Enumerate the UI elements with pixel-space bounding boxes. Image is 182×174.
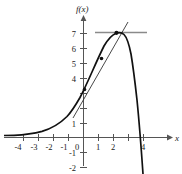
xtick-label: 4 <box>141 142 146 152</box>
ytick-label: -2 <box>69 163 76 173</box>
x-axis-arrowhead <box>167 135 173 141</box>
ytick-label: -1 <box>69 148 76 158</box>
ytick-label: 4 <box>72 74 77 84</box>
ytick-label: 1 <box>72 119 76 129</box>
x-axis <box>4 135 173 141</box>
function-graph-figure: f(x) x -4 -3 -2 -1 0 1 2 4 -2 -1 1 4 5 6… <box>0 0 182 174</box>
secant-point-lower <box>83 88 87 92</box>
x-axis-label: x <box>174 133 179 143</box>
xtick-label: -4 <box>14 142 22 152</box>
maximum-point <box>114 31 118 35</box>
y-axis-label: f(x) <box>76 4 89 14</box>
ytick-label: 6 <box>72 44 76 54</box>
xtick-label: -2 <box>45 142 52 152</box>
secant-point-upper <box>100 57 104 61</box>
y-axis-arrowhead <box>81 15 87 21</box>
xtick-label: 2 <box>111 142 115 152</box>
xtick-label: 1 <box>96 142 100 152</box>
xtick-label: -1 <box>60 142 67 152</box>
xtick-label: -3 <box>30 142 37 152</box>
ytick-label: 5 <box>72 59 76 69</box>
ytick-label: 7 <box>72 29 76 39</box>
secant-line <box>73 22 128 118</box>
graph-canvas: f(x) x -4 -3 -2 -1 0 1 2 4 -2 -1 1 4 5 6… <box>0 0 182 174</box>
